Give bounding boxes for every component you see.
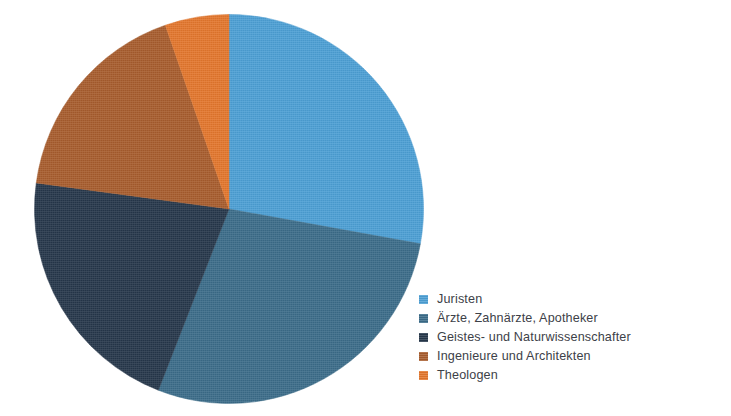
legend-item-ingenieure[interactable]: Ingenieure und Architekten (419, 347, 719, 366)
legend-item-juristen[interactable]: Juristen (419, 290, 719, 309)
legend-item-geistes[interactable]: Geistes- und Naturwissenschafter (419, 328, 719, 347)
pie-slice-juristen[interactable] (229, 15, 424, 244)
pie-slices (34, 15, 423, 404)
legend-item-theologen[interactable]: Theologen (419, 366, 719, 385)
pie-chart-figure: Juristen Ärzte, Zahnärzte, Apotheker Gei… (0, 0, 731, 416)
legend-label-juristen: Juristen (437, 292, 482, 307)
legend-label-geistes: Geistes- und Naturwissenschafter (437, 330, 631, 345)
legend-swatch-ingenieure (419, 352, 428, 361)
pie-chart-svg (34, 14, 424, 404)
legend-label-ingenieure: Ingenieure und Architekten (437, 349, 591, 364)
chart-legend: Juristen Ärzte, Zahnärzte, Apotheker Gei… (419, 290, 719, 385)
pie-chart-plot-area (34, 14, 424, 404)
legend-swatch-theologen (419, 371, 428, 380)
legend-swatch-juristen (419, 295, 428, 304)
legend-swatch-aerzte (419, 314, 428, 323)
legend-item-aerzte[interactable]: Ärzte, Zahnärzte, Apotheker (419, 309, 719, 328)
legend-swatch-geistes (419, 333, 428, 342)
legend-label-theologen: Theologen (437, 368, 498, 383)
legend-label-aerzte: Ärzte, Zahnärzte, Apotheker (437, 311, 598, 326)
